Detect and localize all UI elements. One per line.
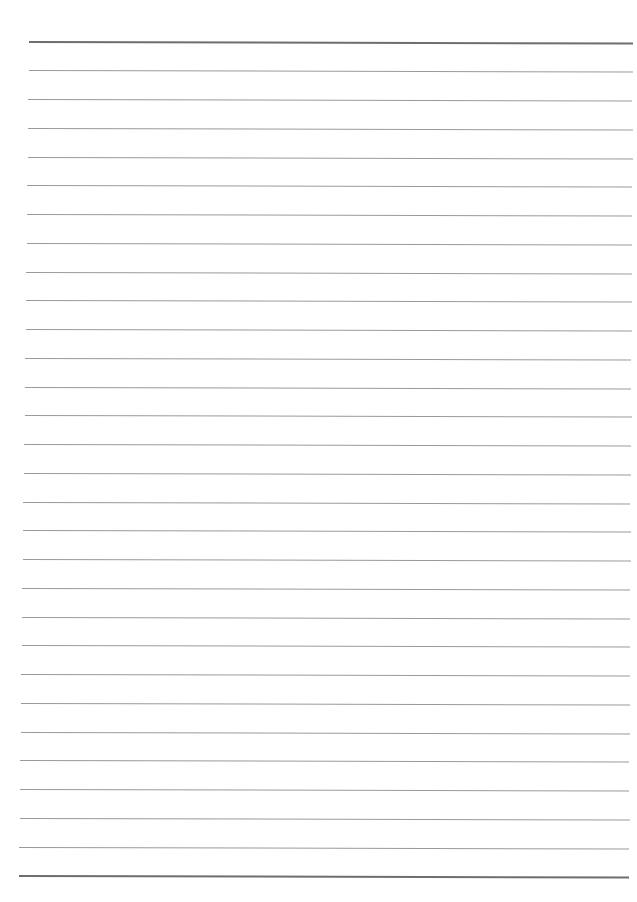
ruled-line <box>20 760 629 763</box>
lined-paper-page <box>0 0 637 902</box>
ruled-line <box>26 300 632 303</box>
bottom-border-line <box>19 875 629 879</box>
ruled-line <box>28 128 633 131</box>
ruled-line <box>23 530 631 533</box>
ruled-line <box>27 243 632 246</box>
ruled-line <box>20 789 629 792</box>
ruled-line <box>22 588 630 591</box>
ruled-line <box>28 99 632 102</box>
ruled-line <box>21 732 630 735</box>
ruled-line <box>28 157 633 160</box>
ruled-line <box>25 387 631 390</box>
ruled-line <box>24 473 631 476</box>
ruled-line <box>26 329 632 332</box>
ruled-line <box>26 272 632 275</box>
ruled-line <box>23 502 630 505</box>
ruled-line <box>27 214 632 217</box>
ruled-line <box>22 645 630 648</box>
ruled-line <box>27 185 632 188</box>
ruled-line <box>20 818 630 821</box>
ruled-line <box>19 847 629 850</box>
ruled-line <box>23 559 631 562</box>
ruled-line <box>25 415 632 418</box>
ruled-line <box>25 358 631 361</box>
ruled-line <box>22 617 630 620</box>
ruled-line <box>29 70 633 73</box>
ruled-line <box>21 674 630 677</box>
top-border-line <box>29 41 633 45</box>
ruled-line <box>24 444 631 447</box>
ruled-line <box>21 703 630 706</box>
